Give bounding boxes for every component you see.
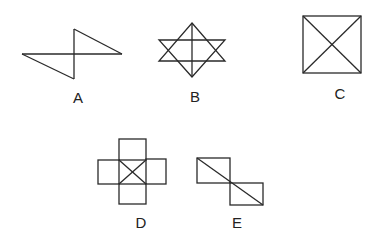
figure-b: [159, 23, 225, 77]
figure-a: [22, 29, 122, 79]
figure-b-label: B: [190, 89, 200, 104]
figure-d-label: D: [136, 215, 147, 230]
figure-a-label: A: [73, 90, 83, 105]
figure-c-label: C: [335, 86, 346, 101]
figure-e: [197, 158, 263, 205]
figure-e-label: E: [232, 215, 242, 230]
figure-c: [303, 16, 361, 73]
figures-canvas: [0, 0, 379, 245]
figure-d: [98, 139, 166, 204]
